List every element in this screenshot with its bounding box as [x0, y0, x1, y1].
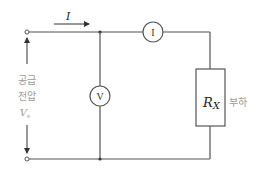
supply-label-line2: 전압 — [18, 90, 36, 102]
voltmeter-label: V — [96, 91, 104, 102]
circuit-diagram: V I RX 부하 I 공급 전압 Vs — [0, 0, 264, 175]
supply-voltage-symbol: Vs — [20, 107, 30, 119]
top-terminal — [25, 30, 29, 34]
load-label: 부하 — [229, 96, 247, 108]
current-label: I — [65, 10, 71, 23]
bottom-terminal — [25, 157, 29, 161]
ammeter-label: I — [151, 27, 154, 38]
supply-label-line1: 공급 — [18, 75, 36, 86]
